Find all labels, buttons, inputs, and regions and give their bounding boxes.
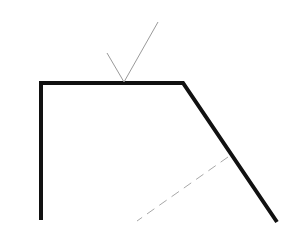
reflecting-surface xyxy=(41,83,277,222)
dashed-extension-line xyxy=(137,157,228,221)
reflected-ray xyxy=(124,22,158,82)
reflection-diagram xyxy=(0,0,306,239)
diagram-canvas xyxy=(0,0,306,239)
incident-ray xyxy=(107,53,124,82)
